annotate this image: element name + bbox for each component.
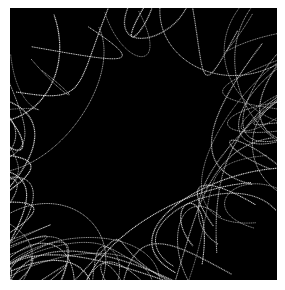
curve-line <box>191 8 238 75</box>
curve-line <box>32 27 123 59</box>
curve-line <box>10 177 33 273</box>
curve-line <box>181 203 205 264</box>
curve-line <box>10 242 120 280</box>
curves-canvas <box>10 8 277 280</box>
curve-line <box>10 27 104 173</box>
curve-image: Dense tangle of thin white looping curve… <box>10 8 277 280</box>
curve-line <box>156 193 276 266</box>
curve-line <box>160 8 277 76</box>
curve-line <box>31 59 69 95</box>
curve-line <box>92 247 180 280</box>
curve-line <box>10 94 18 180</box>
curve-line <box>105 11 150 57</box>
curve-line <box>235 8 277 151</box>
curve-line <box>10 102 16 168</box>
curve-line <box>10 83 25 183</box>
curve-line <box>252 93 277 203</box>
curve-line <box>227 101 277 133</box>
curve-line <box>223 59 277 110</box>
curve-line <box>185 155 267 280</box>
curve-line <box>10 100 35 238</box>
curve-line <box>225 184 277 228</box>
curve-line <box>10 265 67 280</box>
curve-line <box>226 14 277 51</box>
curve-line <box>10 104 23 150</box>
curve-line <box>152 168 277 273</box>
curve-line <box>10 251 191 280</box>
curve-line <box>10 14 60 122</box>
